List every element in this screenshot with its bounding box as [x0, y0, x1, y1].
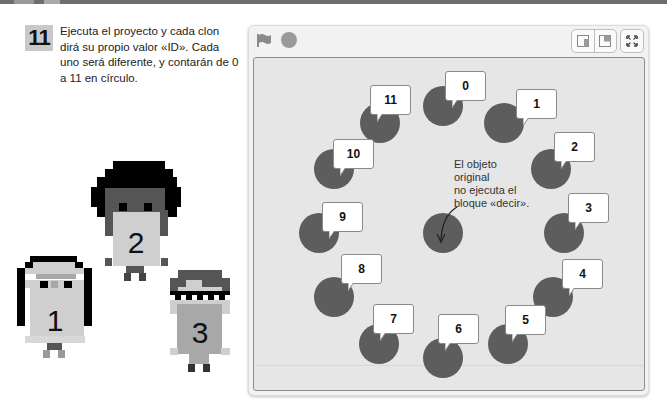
small-stage-icon [577, 35, 589, 47]
stage-canvas[interactable]: 0 1 2 3 4 5 6 7 8 9 10 11 El objeto orig… [253, 57, 645, 391]
annotation-arrow-icon [254, 58, 644, 390]
green-flag-icon[interactable] [256, 32, 272, 48]
fullscreen-button[interactable] [620, 29, 644, 53]
large-stage-button[interactable] [594, 30, 617, 52]
character-three: 3 [170, 270, 230, 372]
character-one-label: 1 [47, 304, 64, 337]
character-one: 1 [17, 256, 92, 358]
stage-size-toggle [571, 29, 617, 53]
character-three-label: 3 [192, 316, 209, 349]
small-stage-button[interactable] [572, 30, 594, 52]
characters-illustration: 2 1 [0, 0, 240, 404]
stop-icon[interactable] [281, 32, 297, 48]
character-two-label: 2 [128, 226, 145, 259]
fullscreen-icon [626, 35, 638, 47]
character-two: 2 [91, 161, 181, 281]
large-stage-icon [599, 35, 611, 47]
